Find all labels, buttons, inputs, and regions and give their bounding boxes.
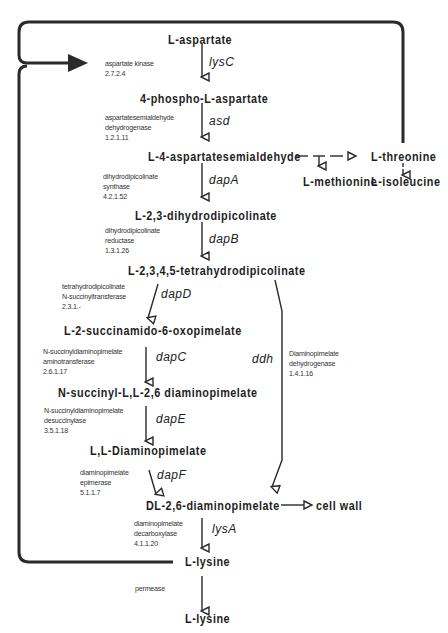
metabolite-l-2-3-dihydrodipicolinate: L-2,3-dihydrodipicolinate xyxy=(135,209,277,223)
gene-dapc: dapC xyxy=(156,350,187,364)
metabolite-l-isoleucine: L-isoleucine xyxy=(371,175,440,189)
metabolite-l-aspartate: L-aspartate xyxy=(168,33,232,47)
enzyme-dapc: N-succinyldiaminopimelateaminotransferas… xyxy=(43,347,122,377)
enzyme-dapb: dihydrodipicolinatereductase1.3.1.26 xyxy=(105,226,160,256)
metabolite-l-lysine: L-lysine xyxy=(185,555,230,569)
enzyme-dapf: diaminopimelateepimerase5.1.1.7 xyxy=(80,468,129,498)
gene-dapa: dapA xyxy=(209,173,239,187)
enzyme-asd: aspartatesemialdehydedehydrogenase1.2.1.… xyxy=(105,113,174,143)
metabolite-l-2-succinamido-6-oxopimelate: L-2-succinamido-6-oxopimelate xyxy=(64,324,242,338)
gene-dapb: dapB xyxy=(209,232,239,246)
enzyme-lysa: diaminopimelatedecarboxylase4.1.1.20 xyxy=(134,519,183,549)
gene-dape: dapE xyxy=(156,412,186,426)
gene-dapf: dapF xyxy=(157,468,186,482)
enzyme-aspartate-kinase: aspartate kinase2.7.2.4 xyxy=(105,59,154,79)
gene-lysa: lysA xyxy=(212,522,237,536)
metabolite-l-4-aspartatesemialdehyde: L-4-aspartatesemialdehyde xyxy=(148,150,301,164)
metabolite-cell-wall: cell wall xyxy=(316,499,362,513)
enzyme-permease: permease xyxy=(135,584,165,594)
metabolite-n-succinyl-diaminopimelate: N-succinyl-L,L-2,6 diaminopimelate xyxy=(58,386,258,400)
enzyme-dape: N-succinyldiaminopimelatedesuccinylase3.… xyxy=(44,406,123,436)
enzyme-dapa: dihydrodipicolinatesynthase4.2.1.52 xyxy=(103,172,158,202)
enzyme-dapd: tetrahydrodipicolinateN-succinyltransfer… xyxy=(62,282,126,312)
metabolite-4-phospho-l-aspartate: 4-phospho-L-aspartate xyxy=(140,92,268,106)
metabolite-tetrahydrodipicolinate: L-2,3,4,5-tetrahydrodipicolinate xyxy=(128,264,306,278)
gene-asd: asd xyxy=(209,114,230,128)
gene-ddh: ddh xyxy=(252,352,274,366)
metabolite-l-lysine-exported: L-lysine xyxy=(185,612,230,626)
lysine-pathway-diagram: L-aspartate 4-phospho-L-aspartate L-4-as… xyxy=(0,0,448,633)
metabolite-dl-diaminopimelate: DL-2,6-diaminopimelate xyxy=(146,499,280,513)
gene-dapd: dapD xyxy=(161,287,192,301)
metabolite-ll-diaminopimelate: L,L-Diaminopimelate xyxy=(90,444,206,458)
metabolite-l-threonine: L-threonine xyxy=(371,150,436,164)
metabolite-l-methionine: L-methionine xyxy=(303,175,377,189)
gene-lysc: lysC xyxy=(209,55,234,69)
enzyme-ddh: Diaminopimelatedehydrogenase1.4.1.16 xyxy=(289,349,339,379)
feedback-arrowhead-icon xyxy=(68,54,88,72)
